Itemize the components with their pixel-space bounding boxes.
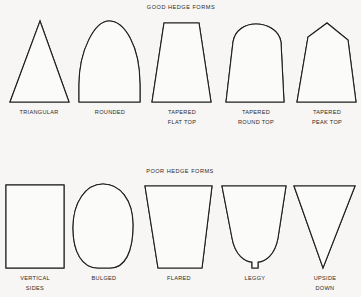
tapered-round-top-label-1: TAPERED — [242, 109, 270, 115]
tapered-flat-top-label-2: FLAT TOP — [168, 119, 196, 125]
tapered-flat-top-label-1: TAPERED — [168, 109, 196, 115]
tapered-round-top-label-2: ROUND TOP — [238, 119, 274, 125]
upside-down-form — [294, 186, 355, 268]
rounded-form — [79, 21, 140, 102]
tapered-flat-top-form — [152, 23, 211, 102]
tapered-peak-top-label-2: PEAK TOP — [312, 119, 342, 125]
rounded-label: ROUNDED — [95, 109, 125, 115]
tapered-peak-top-form — [297, 23, 356, 102]
vertical-sides-label-1: VERTICAL — [20, 275, 50, 281]
flared-form — [145, 186, 212, 268]
leggy-form — [222, 186, 286, 268]
upside-down-label-2: DOWN — [316, 285, 335, 291]
leggy-label: LEGGY — [245, 275, 266, 281]
upside-down-label-1: UPSIDE — [314, 275, 337, 281]
hedge-forms-diagram: GOOD HEDGE FORMS TRIANGULAR ROUNDED TAPE… — [0, 0, 361, 297]
bulged-label: BULGED — [92, 275, 117, 281]
flared-label: FLARED — [167, 275, 191, 281]
bulged-form — [73, 184, 133, 268]
tapered-round-top-form — [226, 24, 284, 102]
good-forms-title: GOOD HEDGE FORMS — [147, 4, 215, 10]
poor-forms-title: POOR HEDGE FORMS — [146, 168, 214, 174]
tapered-peak-top-label-1: TAPERED — [313, 109, 341, 115]
vertical-sides-label-2: SIDES — [26, 285, 44, 291]
triangular-label: TRIANGULAR — [19, 109, 58, 115]
triangular-form — [10, 21, 69, 102]
vertical-sides-form — [6, 185, 64, 268]
